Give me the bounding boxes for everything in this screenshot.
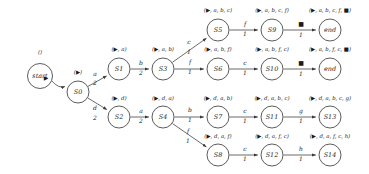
edge-weight-S12-S14: 1	[299, 155, 303, 162]
state-node-S12[interactable]: S12	[261, 144, 283, 166]
state-label-S2: S2	[115, 113, 123, 121]
state-node-S4[interactable]: S4	[152, 106, 174, 128]
state-node-end2[interactable]: end	[319, 58, 341, 80]
state-node-S7[interactable]: S7	[207, 106, 229, 128]
edge-weight-S1-S3: 2	[138, 69, 143, 76]
state-node-S5[interactable]: S5	[207, 19, 229, 41]
state-annotation-start: ()	[38, 49, 42, 55]
edge-symbol-S7-S11: c	[243, 107, 247, 114]
diagram-canvas: startS0S1S2S3S4S5S6S7S8S9S10S11S12endend…	[0, 0, 369, 174]
edge-weight-S5-S9: 1	[243, 30, 247, 37]
state-annotation-S12: (▶, d, a, f, c)	[255, 133, 289, 140]
state-label-S3: S3	[159, 65, 167, 73]
state-annotation-S9: (▶, a, b, c, f)	[255, 7, 289, 14]
state-node-S10[interactable]: S10	[261, 58, 283, 80]
state-transition-diagram: startS0S1S2S3S4S5S6S7S8S9S10S11S12endend…	[0, 0, 369, 174]
state-node-S8[interactable]: S8	[207, 144, 229, 166]
state-annotation-S4: (▶, d, a)	[152, 95, 174, 101]
edge-symbol-S8-S12: c	[243, 145, 247, 152]
edge-weight-S7-S11: 1	[243, 117, 247, 124]
edge-weight-S4-S7: 1	[188, 116, 192, 123]
edge-symbol-S3-S5: c	[187, 38, 191, 45]
edge-symbol-S11-S13: g	[299, 107, 303, 115]
edge-symbol-S3-S6: f	[188, 58, 193, 66]
edge-symbol-S9-end1: ■	[298, 20, 304, 27]
state-node-S0[interactable]: S0	[67, 81, 89, 103]
state-node-start[interactable]: start	[28, 64, 53, 89]
edge-symbol-S6-S10: c	[243, 59, 247, 66]
edge-weight-S0-S2: 2	[92, 114, 97, 121]
state-annotation-S11: (▶, d, a, b, c)	[254, 95, 289, 101]
state-annotation-S10: (▶, a, b, f, c)	[255, 46, 289, 53]
state-label-S0: S0	[74, 88, 82, 96]
state-label-S14: S14	[324, 151, 337, 159]
state-annotation-S1: (▶, a)	[112, 46, 127, 52]
state-label-S6: S6	[214, 65, 222, 73]
edge-weight-S11-S13: 1	[299, 117, 303, 124]
state-node-S11[interactable]: S11	[261, 106, 283, 128]
state-node-S9[interactable]: S9	[261, 19, 283, 41]
state-annotation-S5: (▶, a, b, c)	[204, 7, 232, 13]
edge-symbol-S10-end2: ■	[298, 59, 304, 66]
edge-S0-to-S2	[88, 98, 107, 110]
state-node-S14[interactable]: S14	[319, 144, 341, 166]
edge-symbol-S0-S1: a	[93, 70, 97, 77]
state-annotation-S0: (▶)	[74, 69, 82, 75]
edge-S0-to-S1	[88, 76, 107, 86]
state-label-S4: S4	[159, 113, 167, 121]
edge-weight-S2-S4: 2	[138, 117, 143, 124]
edge-weight-S3-S6: 1	[188, 68, 192, 75]
edge-weight-S10-end2: 1	[299, 70, 303, 77]
edge-weight-S8-S12: 1	[243, 155, 247, 162]
state-annotation-end2: (▶, a, b, f, c, ■)	[309, 46, 351, 53]
edge-weight-S0-S1: 2	[92, 79, 97, 86]
state-label-S13: S13	[324, 113, 337, 121]
edge-symbol-S4-S7: b	[188, 106, 192, 113]
edge-start-to-S0	[52, 81, 65, 87]
state-node-S3[interactable]: S3	[152, 58, 174, 80]
state-node-S1[interactable]: S1	[108, 58, 130, 80]
state-label-S9: S9	[268, 26, 276, 34]
state-annotation-S14: (▶, d, a, f, c, h)	[310, 133, 350, 140]
state-label-end1: end	[324, 26, 336, 34]
edge-symbol-S5-S9: f	[243, 20, 248, 28]
edge-weight-S6-S10: 1	[243, 69, 247, 76]
state-annotation-S6: (▶, a, b, f)	[204, 46, 231, 53]
edge-symbol-S12-S14: h	[299, 145, 303, 152]
edge-weight-S3-S5: 1	[187, 48, 191, 55]
edge-weight-S9-end1: 1	[299, 31, 303, 38]
state-label-end2: end	[324, 65, 336, 73]
state-annotation-S7: (▶, d, a, b)	[204, 95, 233, 101]
edge-symbol-S2-S4: a	[139, 107, 143, 114]
state-label-S7: S7	[214, 113, 223, 121]
edge-symbol-S4-S8: f	[186, 127, 191, 135]
state-label-S1: S1	[115, 65, 123, 73]
edge-symbol-S0-S2: d	[93, 104, 97, 111]
edge-weight-S4-S8: 1	[186, 137, 190, 144]
state-label-S11: S11	[266, 113, 279, 121]
state-annotation-S8: (▶, d, a, f)	[204, 133, 231, 140]
state-label-S5: S5	[214, 26, 222, 34]
state-node-S13[interactable]: S13	[319, 106, 341, 128]
edge-symbol-S1-S3: b	[139, 59, 143, 66]
state-annotation-end1: (▶, a, b, c, f, ■)	[309, 7, 351, 14]
nodes-layer: startS0S1S2S3S4S5S6S7S8S9S10S11S12endend…	[28, 19, 342, 166]
state-node-end1[interactable]: end	[319, 19, 341, 41]
state-label-S10: S10	[266, 65, 279, 73]
state-annotation-S13: (▶, d, a, b, c, g)	[309, 95, 351, 102]
state-annotation-S2: (▶, d)	[111, 95, 126, 101]
state-annotation-S3: (▶, a, b)	[152, 46, 174, 52]
state-label-S8: S8	[214, 151, 222, 159]
edge-symbol-start-S0: ▶	[44, 74, 49, 81]
state-node-S2[interactable]: S2	[108, 106, 130, 128]
state-node-S6[interactable]: S6	[207, 58, 229, 80]
state-label-S12: S12	[266, 151, 279, 159]
